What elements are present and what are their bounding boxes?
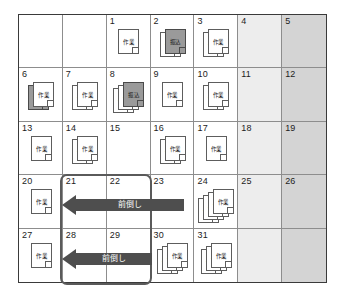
day-number: 17 <box>197 123 207 134</box>
calendar-empty-cell[interactable] <box>63 15 107 68</box>
calendar-day-cell[interactable]: 6振込作業 <box>19 68 63 121</box>
calendar-day-cell[interactable]: 10作業作業 <box>194 68 238 121</box>
day-number: 3 <box>197 16 202 27</box>
calendar-day-cell[interactable]: 9作業 <box>151 68 195 121</box>
calendar-day-cell[interactable]: 30作業作業作業 <box>151 229 195 282</box>
calendar-day-cell[interactable]: 5 <box>282 15 326 68</box>
task-icon-stack: 作業作業作業作業 <box>194 189 237 223</box>
task-icon-stack: 作業作業 <box>63 82 106 116</box>
calendar-day-cell[interactable]: 14作業作業 <box>63 122 107 175</box>
day-number: 1 <box>110 16 115 27</box>
work-document-icon: 作業 <box>208 29 229 54</box>
calendar-day-cell[interactable]: 4 <box>238 15 282 68</box>
document-icon-label: 作業 <box>215 191 232 214</box>
calendar-day-cell[interactable]: 24作業作業作業作業 <box>194 175 238 228</box>
calendar-day-cell[interactable]: 7作業作業 <box>63 68 107 121</box>
document-icon-label: 作業 <box>208 138 225 161</box>
calendar-day-cell[interactable]: 15 <box>107 122 151 175</box>
calendar-day-cell[interactable]: 8作業作業振込 <box>107 68 151 121</box>
calendar-day-cell[interactable]: 20作業 <box>19 175 63 228</box>
day-number: 20 <box>22 176 32 187</box>
day-number: 9 <box>154 69 159 80</box>
work-document-icon: 作業 <box>31 243 52 268</box>
work-document-icon: 作業 <box>165 136 186 161</box>
calendar-day-cell[interactable]: 1作業 <box>107 15 151 68</box>
day-number: 22 <box>110 176 120 187</box>
calendar-day-cell[interactable]: 19 <box>282 122 326 175</box>
task-icon-stack: 作業作業作業 <box>194 243 237 277</box>
day-number: 11 <box>241 69 251 80</box>
calendar-empty-cell[interactable] <box>19 15 63 68</box>
day-number: 27 <box>22 230 32 241</box>
arrow-annotation-1: 前倒し <box>62 195 184 215</box>
day-number: 30 <box>154 230 164 241</box>
arrow-label: 前倒し <box>118 200 143 210</box>
task-icon-stack: 作業 <box>151 82 194 116</box>
calendar-day-cell[interactable]: 11 <box>238 68 282 121</box>
task-icon-stack: 作業作業作業 <box>151 243 194 277</box>
task-icon-stack: 作業作業振込 <box>107 82 150 116</box>
task-icon-stack: 作業振込 <box>151 29 194 63</box>
work-document-icon: 作業 <box>118 29 139 54</box>
document-icon-label: 作業 <box>79 84 96 107</box>
day-number: 28 <box>66 230 76 241</box>
work-document-icon: 作業 <box>77 136 98 161</box>
day-number: 18 <box>241 123 251 134</box>
document-icon-label: 作業 <box>120 31 137 54</box>
calendar-day-cell[interactable]: 2作業振込 <box>151 15 195 68</box>
day-number: 5 <box>285 16 290 27</box>
transfer-document-icon: 振込 <box>123 82 144 107</box>
day-number: 2 <box>154 16 159 27</box>
day-number: 31 <box>197 230 207 241</box>
day-number: 4 <box>241 16 246 27</box>
task-icon-stack: 作業 <box>19 243 62 277</box>
work-document-icon: 作業 <box>77 82 98 107</box>
task-icon-stack: 作業 <box>19 189 62 223</box>
calendar-grid: 1作業2作業振込3作業作業456振込作業7作業作業8作業作業振込9作業10作業作… <box>18 14 327 283</box>
day-number: 29 <box>110 230 120 241</box>
document-icon-label: 振込 <box>166 31 183 54</box>
arrow-body: 前倒し <box>76 199 184 211</box>
calendar-day-cell[interactable]: 17作業 <box>194 122 238 175</box>
transfer-document-icon: 振込 <box>165 29 186 54</box>
document-icon-label: 作業 <box>166 138 183 161</box>
task-icon-stack: 作業作業 <box>63 136 106 170</box>
day-number: 8 <box>110 69 115 80</box>
work-document-icon: 作業 <box>31 136 52 161</box>
document-icon-label: 作業 <box>32 191 49 214</box>
calendar-empty-cell[interactable] <box>238 229 282 282</box>
calendar-day-cell[interactable]: 31作業作業作業 <box>194 229 238 282</box>
day-number: 23 <box>154 176 164 187</box>
day-number: 16 <box>154 123 164 134</box>
day-number: 26 <box>285 176 295 187</box>
calendar-day-cell[interactable]: 16作業作業 <box>151 122 195 175</box>
calendar-schedule-diagram: 1作業2作業振込3作業作業456振込作業7作業作業8作業作業振込9作業10作業作… <box>0 0 344 298</box>
task-icon-stack: 作業作業 <box>194 82 237 116</box>
work-document-icon: 作業 <box>211 243 232 268</box>
task-icon-stack: 作業 <box>19 136 62 170</box>
calendar-day-cell[interactable]: 26 <box>282 175 326 228</box>
calendar-day-cell[interactable]: 27作業 <box>19 229 63 282</box>
day-number: 13 <box>22 123 32 134</box>
work-document-icon: 作業 <box>167 243 188 268</box>
day-number: 19 <box>285 123 295 134</box>
document-icon-label: 作業 <box>79 138 96 161</box>
work-document-icon: 作業 <box>208 82 229 107</box>
document-icon-label: 作業 <box>32 138 49 161</box>
work-document-icon: 作業 <box>213 189 234 214</box>
task-icon-stack: 作業 <box>194 136 237 170</box>
calendar-day-cell[interactable]: 12 <box>282 68 326 121</box>
calendar-day-cell[interactable]: 25 <box>238 175 282 228</box>
document-icon-label: 作業 <box>35 84 52 107</box>
day-number: 14 <box>66 123 76 134</box>
calendar-day-cell[interactable]: 3作業作業 <box>194 15 238 68</box>
calendar-day-cell[interactable]: 13作業 <box>19 122 63 175</box>
task-icon-stack: 作業作業 <box>151 136 194 170</box>
calendar-day-cell[interactable]: 18 <box>238 122 282 175</box>
document-icon-label: 作業 <box>210 31 227 54</box>
calendar-empty-cell[interactable] <box>282 229 326 282</box>
day-number: 21 <box>66 176 76 187</box>
arrow-head-icon <box>62 249 76 269</box>
arrow-head-icon <box>62 195 76 215</box>
task-icon-stack: 作業作業 <box>194 29 237 63</box>
